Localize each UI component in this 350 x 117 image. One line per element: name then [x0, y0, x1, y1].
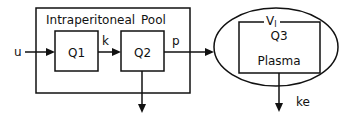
p-arrowhead-icon — [205, 48, 214, 56]
volume-label: VI — [266, 14, 277, 29]
pharmacokinetic-compartment-diagram: Intraperitoneal Pool Q1 Q2 u k p VI Q3 P… — [0, 0, 350, 117]
q1-label: Q1 — [68, 46, 85, 60]
u-arrowhead-icon — [46, 48, 55, 56]
ke-arrowhead-icon — [275, 103, 283, 112]
k-arrowhead-icon — [112, 48, 121, 56]
pool-label: Pool — [141, 13, 166, 27]
u-flow-label: u — [14, 45, 22, 59]
k-flow-label: k — [102, 34, 109, 48]
ke-flow-label: ke — [296, 95, 310, 109]
plasma-label: Plasma — [257, 54, 300, 68]
q2-outflow-arrowhead-icon — [138, 104, 146, 113]
q2-label: Q2 — [134, 46, 151, 60]
p-flow-label: p — [172, 34, 180, 48]
q3-label: Q3 — [270, 29, 287, 43]
intraperitoneal-label: Intraperitoneal — [46, 13, 135, 27]
